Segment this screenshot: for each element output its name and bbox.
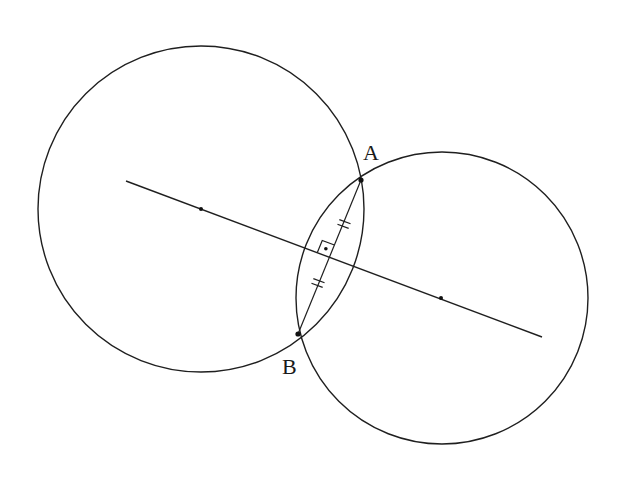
right-center-point xyxy=(439,296,443,300)
right-angle-dot xyxy=(324,247,328,251)
point-a xyxy=(358,177,363,182)
diagram-canvas: A B xyxy=(0,0,626,478)
label-a: A xyxy=(363,140,379,165)
chord-ab xyxy=(298,180,361,334)
geometry-figure: A B xyxy=(0,0,626,478)
left-center-point xyxy=(199,207,203,211)
line-through-centers xyxy=(126,181,542,337)
point-b xyxy=(295,331,300,336)
label-b: B xyxy=(282,354,297,379)
